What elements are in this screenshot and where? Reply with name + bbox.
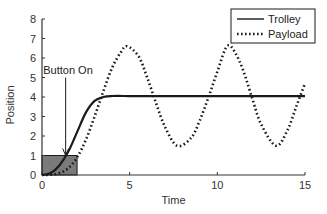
y-tick-label: 5 — [30, 72, 36, 84]
y-tick-label: 4 — [30, 91, 36, 103]
x-axis-title: Time — [161, 194, 185, 206]
x-tick-label: 10 — [211, 179, 223, 191]
x-tick-label: 15 — [299, 179, 311, 191]
y-tick-label: 1 — [30, 150, 36, 162]
x-tick-label: 5 — [127, 179, 133, 191]
position-time-chart: 012345678051015 Button On Time Position … — [0, 0, 327, 214]
y-tick-label: 7 — [30, 33, 36, 45]
y-tick-label: 8 — [30, 13, 36, 25]
y-tick-label: 2 — [30, 130, 36, 142]
y-tick-label: 6 — [30, 52, 36, 64]
button-on-label: Button On — [43, 64, 93, 76]
x-tick-label: 0 — [39, 179, 45, 191]
y-axis-title: Position — [4, 85, 16, 124]
y-tick-label: 3 — [30, 111, 36, 123]
legend-payload-label: Payload — [268, 28, 308, 40]
legend: Trolley Payload — [231, 9, 315, 43]
y-tick-label: 0 — [30, 169, 36, 181]
legend-trolley-label: Trolley — [268, 13, 301, 25]
chart-container: 012345678051015 Button On Time Position … — [0, 0, 327, 214]
series-trolley — [42, 96, 305, 175]
